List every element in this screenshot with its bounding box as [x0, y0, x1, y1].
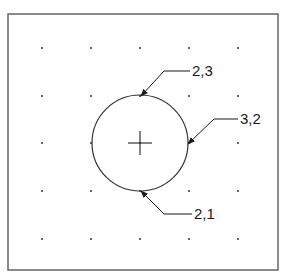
grid-dot: [237, 238, 239, 240]
leader-arrow-icon: [188, 119, 238, 144]
callout-2-1: 2,1: [141, 191, 215, 222]
grid-dot: [41, 47, 43, 49]
diagram-canvas: 2,33,22,1: [0, 0, 288, 279]
callout-label: 3,2: [240, 110, 261, 127]
callouts: 2,33,22,1: [141, 62, 261, 222]
callout-label: 2,3: [192, 62, 213, 79]
grid-dot: [41, 142, 43, 144]
grid-dot: [188, 47, 190, 49]
grid-dot: [90, 95, 92, 97]
grid-dot: [139, 238, 141, 240]
grid-dot: [41, 238, 43, 240]
grid-dot: [90, 47, 92, 49]
grid-dot: [237, 142, 239, 144]
grid-dot: [237, 190, 239, 192]
grid-dot: [90, 238, 92, 240]
leader-arrow-icon: [141, 71, 190, 96]
grid-dot: [90, 190, 92, 192]
grid-dot: [237, 47, 239, 49]
callout-label: 2,1: [194, 205, 215, 222]
grid-dot: [188, 238, 190, 240]
grid-dot: [237, 95, 239, 97]
callout-3-2: 3,2: [188, 110, 261, 144]
grid-dot: [41, 190, 43, 192]
drawing-frame: [8, 14, 278, 270]
center-mark-icon: [128, 131, 152, 155]
grid-dot: [188, 190, 190, 192]
grid-dot: [139, 47, 141, 49]
callout-2-3: 2,3: [141, 62, 213, 96]
leader-arrow-icon: [141, 191, 192, 214]
grid-dot: [41, 95, 43, 97]
grid-dot: [188, 95, 190, 97]
